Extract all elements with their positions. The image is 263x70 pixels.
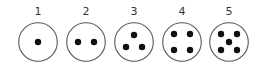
group-label: 5 bbox=[207, 5, 251, 18]
circle-icon bbox=[209, 22, 249, 62]
dot-group-3: 3 bbox=[112, 0, 156, 70]
circle-icon bbox=[18, 22, 58, 62]
dot-icon bbox=[91, 39, 97, 45]
dot-group-5: 5 bbox=[207, 0, 251, 70]
group-label: 1 bbox=[16, 5, 60, 18]
dot-group-4: 4 bbox=[160, 0, 204, 70]
circle-icon bbox=[66, 22, 106, 62]
group-label: 2 bbox=[64, 5, 108, 18]
dot-group-1: 1 bbox=[16, 0, 60, 70]
dot-icon bbox=[187, 31, 193, 37]
group-label: 4 bbox=[160, 5, 204, 18]
dot-icon bbox=[234, 31, 240, 37]
circle-icon bbox=[114, 22, 154, 62]
dot-icon bbox=[171, 47, 177, 53]
dot-icon bbox=[123, 44, 129, 50]
dot-icon bbox=[218, 47, 224, 53]
dot-icon bbox=[234, 47, 240, 53]
dot-icon bbox=[187, 47, 193, 53]
dot-icon bbox=[35, 39, 41, 45]
dot-icon bbox=[226, 39, 232, 45]
dot-icon bbox=[218, 31, 224, 37]
dot-icon bbox=[171, 31, 177, 37]
dot-icon bbox=[131, 32, 137, 38]
circle-icon bbox=[162, 22, 202, 62]
dot-icon bbox=[139, 44, 145, 50]
group-label: 3 bbox=[112, 5, 156, 18]
dot-icon bbox=[75, 39, 81, 45]
dot-group-2: 2 bbox=[64, 0, 108, 70]
